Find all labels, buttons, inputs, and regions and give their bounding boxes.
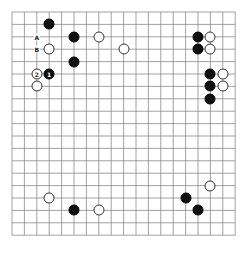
black-stone[interactable] — [69, 56, 80, 67]
black-stone[interactable] — [193, 205, 204, 216]
white-stone[interactable] — [93, 205, 104, 216]
black-stone[interactable] — [205, 93, 216, 104]
black-stone[interactable] — [205, 81, 216, 92]
white-stone[interactable] — [205, 31, 216, 42]
black-stone[interactable]: 1 — [44, 69, 55, 80]
white-stone[interactable] — [205, 44, 216, 55]
white-stone[interactable] — [44, 193, 55, 204]
point-marker-b: B — [34, 46, 41, 53]
black-stone[interactable] — [69, 205, 80, 216]
black-stone[interactable] — [193, 44, 204, 55]
go-board[interactable]: AB21 — [0, 0, 249, 256]
white-stone[interactable] — [93, 31, 104, 42]
white-stone[interactable] — [205, 180, 216, 191]
white-stone[interactable]: 2 — [31, 69, 42, 80]
white-stone[interactable] — [217, 81, 228, 92]
white-stone[interactable] — [118, 44, 129, 55]
white-stone[interactable] — [44, 44, 55, 55]
black-stone[interactable] — [69, 31, 80, 42]
black-stone[interactable] — [193, 31, 204, 42]
white-stone[interactable] — [217, 69, 228, 80]
white-stone[interactable] — [31, 81, 42, 92]
point-marker-a: A — [33, 33, 40, 40]
black-stone[interactable] — [44, 19, 55, 30]
black-stone[interactable] — [180, 193, 191, 204]
black-stone[interactable] — [205, 69, 216, 80]
